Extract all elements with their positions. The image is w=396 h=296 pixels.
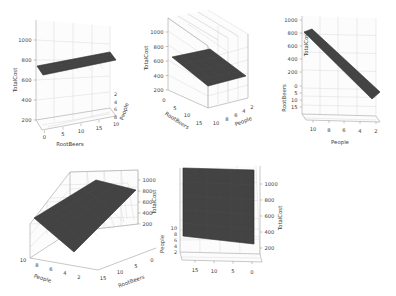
svg-text:8: 8	[327, 127, 330, 133]
svg-text:4: 4	[114, 99, 117, 105]
svg-text:6: 6	[342, 127, 345, 133]
svg-text:4: 4	[63, 270, 67, 276]
svg-text:15: 15	[100, 275, 107, 281]
subplot-3[interactable]: 1000 800 600 400 200 0 5 10 15 10 8 6 4 …	[272, 4, 396, 150]
svg-text:800: 800	[265, 197, 275, 203]
svg-text:600: 600	[22, 77, 32, 83]
svg-text:6: 6	[49, 266, 52, 272]
svg-text:10: 10	[113, 121, 119, 127]
svg-text:200: 200	[22, 117, 32, 123]
svg-text:15: 15	[192, 267, 199, 273]
svg-text:0: 0	[43, 134, 46, 140]
svg-text:4: 4	[358, 128, 362, 134]
z-axis-label-1: TotalCost	[12, 68, 18, 94]
z-ticklabels-1: 1000 800 600 400 200	[18, 37, 31, 123]
subplot-1[interactable]: 1000 800 600 400 200 0 5 10 15 2 4 6 8 1…	[6, 8, 132, 148]
svg-text:200: 200	[154, 87, 164, 93]
svg-text:15: 15	[291, 104, 298, 110]
z-tickmarks-3	[300, 20, 302, 107]
svg-text:2: 2	[77, 274, 80, 280]
svg-text:15: 15	[196, 120, 203, 126]
z-tickmarks-1	[34, 40, 36, 120]
svg-text:800: 800	[154, 44, 164, 50]
svg-text:10: 10	[310, 126, 317, 132]
svg-text:10: 10	[291, 97, 298, 103]
subplot-5[interactable]: 1000 800 600 400 200 10 8 6 4 2 15 10 5 …	[150, 152, 286, 296]
x-axis-label-1: RootBeers	[56, 141, 84, 147]
svg-text:10: 10	[117, 269, 124, 275]
figure-canvas: 1000 800 600 400 200 0 5 10 15 2 4 6 8 1…	[0, 0, 396, 296]
svg-text:600: 600	[265, 213, 275, 219]
y-axis-label-1: People	[118, 101, 130, 121]
y-axis-label-5: People	[159, 234, 166, 253]
y-ticklabels-1: 2 4 6 8 10	[113, 91, 119, 127]
x-axis-label-4: People	[33, 273, 53, 285]
surface-plot-5	[183, 168, 254, 244]
svg-text:5: 5	[231, 268, 234, 274]
z-axis-label-2: TotalCost	[143, 46, 149, 72]
svg-text:1000: 1000	[265, 181, 278, 187]
svg-text:5: 5	[61, 131, 64, 137]
z-axis-label-3: TotalCost	[303, 32, 309, 58]
svg-text:8: 8	[35, 262, 38, 268]
svg-text:1000: 1000	[18, 37, 31, 43]
svg-text:600: 600	[288, 43, 298, 49]
svg-text:1000: 1000	[150, 29, 163, 35]
svg-text:200: 200	[265, 245, 275, 251]
svg-text:8: 8	[225, 116, 228, 122]
svg-text:5: 5	[134, 263, 137, 269]
x-ticklabels-5: 15 10 5 0	[192, 267, 254, 275]
subplot-4[interactable]: 1000 800 600 400 200 10 8 6 4 2 15 10 5 …	[8, 152, 160, 296]
svg-text:2: 2	[250, 104, 253, 110]
svg-text:0: 0	[162, 97, 165, 103]
svg-text:6: 6	[114, 106, 117, 112]
svg-text:400: 400	[288, 56, 298, 62]
svg-text:400: 400	[22, 97, 32, 103]
svg-text:0: 0	[294, 83, 297, 89]
svg-text:6: 6	[234, 112, 237, 118]
z-ticklabels-5: 1000 800 600 400 200	[265, 181, 278, 251]
z-axis-label-5: TotalCost	[277, 206, 283, 232]
y-ticklabels-5: 10 8 6 4 2	[171, 225, 177, 255]
subplot-2[interactable]: 1000 800 600 400 200 0 5 10 15 10 8 6 4 …	[134, 4, 262, 150]
svg-text:2: 2	[374, 128, 377, 134]
svg-text:400: 400	[154, 73, 164, 79]
y-ticklabels-4: 15 10 5 0	[100, 257, 154, 281]
svg-text:10: 10	[78, 128, 85, 134]
svg-text:600: 600	[154, 58, 164, 64]
svg-text:800: 800	[288, 30, 298, 36]
svg-text:10: 10	[184, 112, 191, 118]
svg-text:0: 0	[250, 269, 253, 275]
svg-text:200: 200	[288, 69, 298, 75]
x-ticklabels-3: 10 8 6 4 2	[310, 126, 378, 134]
x-axis-label-3: People	[331, 139, 350, 146]
svg-text:15: 15	[96, 125, 103, 131]
svg-text:5: 5	[173, 105, 176, 111]
z-tickmarks-5	[260, 184, 262, 248]
z-ticklabels-2: 1000 800 600 400 200	[150, 29, 163, 93]
svg-text:5: 5	[294, 90, 297, 96]
svg-text:2: 2	[114, 91, 117, 97]
y-axis-label-3: RootBeers	[281, 84, 287, 112]
svg-text:800: 800	[22, 57, 32, 63]
y-ticklabels-3: 0 5 10 15	[291, 83, 298, 110]
y-axis-label-4: RootBeers	[117, 274, 145, 289]
svg-text:10: 10	[213, 120, 220, 126]
svg-text:10: 10	[211, 268, 218, 274]
z-tickmarks-2	[166, 32, 168, 90]
z-ticklabels-3: 1000 800 600 400 200	[284, 17, 297, 75]
svg-text:4: 4	[242, 108, 246, 114]
svg-text:2: 2	[174, 249, 177, 255]
svg-text:1000: 1000	[284, 17, 297, 23]
svg-text:10: 10	[20, 257, 27, 263]
svg-text:400: 400	[265, 229, 275, 235]
svg-text:8: 8	[114, 114, 117, 120]
